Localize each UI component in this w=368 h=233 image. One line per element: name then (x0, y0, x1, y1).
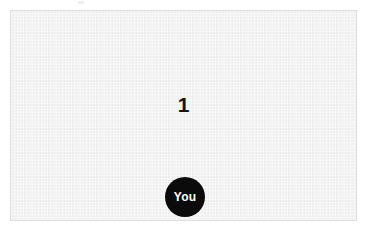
playfield[interactable]: 1 You (10, 10, 357, 221)
score-counter: 1 (11, 93, 356, 117)
player-token[interactable]: You (165, 177, 205, 217)
app-root: 1 You (0, 0, 368, 233)
player-token-label: You (174, 191, 196, 203)
top-edge-artifact (78, 1, 84, 4)
